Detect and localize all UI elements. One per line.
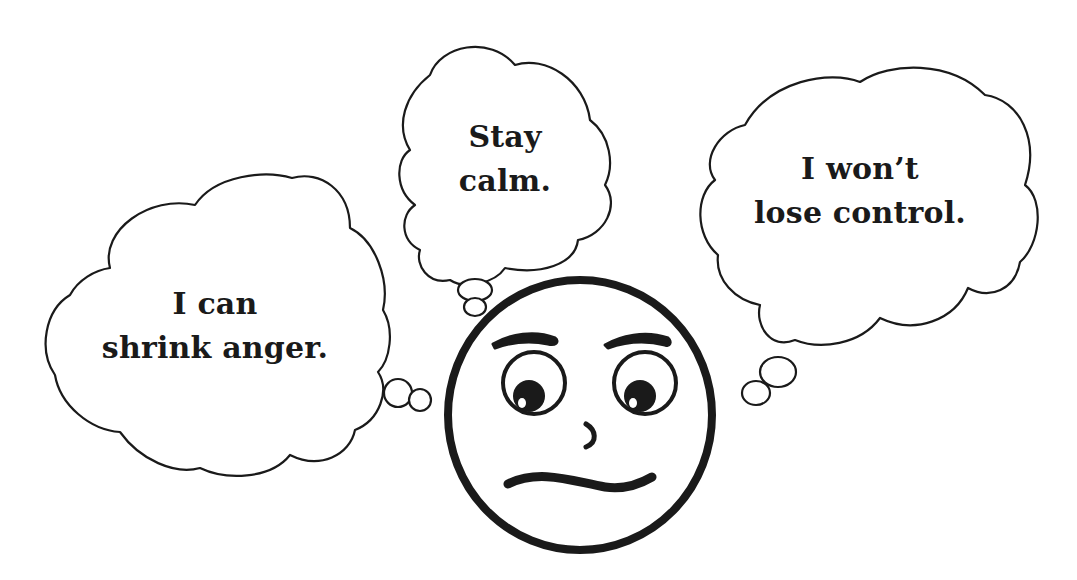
thought-middle-line-2: calm.	[430, 159, 580, 203]
tail-bubble-middle-2	[464, 298, 486, 316]
tail-bubble-right-1	[760, 357, 796, 387]
thought-middle-line-1: Stay	[430, 115, 580, 159]
right-pupil-highlight	[629, 398, 637, 408]
tail-bubble-left-2	[409, 389, 431, 411]
thought-text-right: I won’t lose control.	[720, 147, 1000, 234]
thought-cloud-right	[700, 68, 1037, 405]
tail-bubble-right-2	[742, 381, 770, 405]
face-outline	[448, 280, 712, 550]
thought-left-line-2: shrink anger.	[70, 326, 360, 370]
left-pupil-highlight	[518, 398, 526, 408]
thought-text-left: I can shrink anger.	[70, 282, 360, 369]
thought-right-line-2: lose control.	[720, 191, 1000, 235]
thought-text-middle: Stay calm.	[430, 115, 580, 202]
thought-left-line-1: I can	[70, 282, 360, 326]
thought-right-line-1: I won’t	[720, 147, 1000, 191]
right-pupil	[624, 380, 656, 412]
left-pupil	[513, 380, 545, 412]
tail-bubble-left-1	[384, 379, 412, 407]
worried-face	[448, 280, 712, 550]
